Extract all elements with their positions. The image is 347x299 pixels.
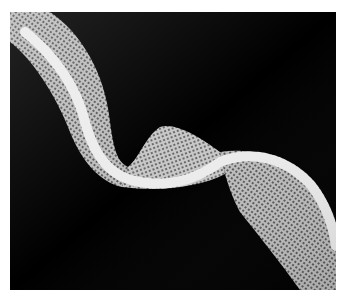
- mesh-ribbon-illustration: [10, 12, 336, 290]
- ribbon-photo: [10, 12, 336, 290]
